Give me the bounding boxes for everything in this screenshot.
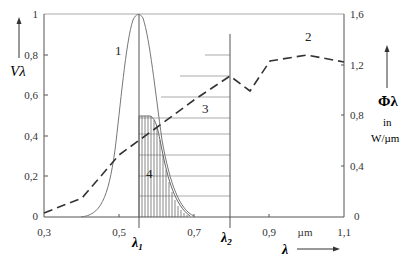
y-right-tick: 1,2 (350, 59, 364, 71)
y-right-tick: 0,4 (350, 160, 364, 172)
annotation-2: 2 (305, 29, 312, 44)
y-right-tick: 1,6 (350, 8, 364, 20)
y-right-tick: 0,8 (350, 109, 364, 121)
y-right-unit-line2: W/µm (371, 132, 400, 144)
y-right-label: Φλ (378, 93, 398, 109)
y-left-tick: 1 (33, 8, 39, 20)
y-left-tick: 0,6 (24, 89, 38, 101)
y-left-arrowhead-icon (17, 17, 22, 24)
annotation-1: 1 (115, 43, 122, 58)
x-axis-label: λ (281, 242, 288, 257)
x-axis-arrowhead-icon (333, 247, 340, 252)
y-left-tick: 0,2 (24, 170, 38, 182)
y-left-ticks (44, 55, 48, 176)
x-tick-label: 0,5 (112, 226, 126, 238)
y-left-tick: 0 (33, 210, 39, 222)
chart: 0,3 0,5 0,7 0,9 1,1 µm 0 0,2 0,4 0,6 0,8… (0, 0, 409, 262)
annotation-4: 4 (146, 166, 153, 181)
x-tick-label: 0,9 (262, 226, 276, 238)
y-right-tick: 0 (354, 210, 360, 222)
y-left-tick: 0,8 (24, 49, 38, 61)
x-unit: µm (298, 226, 313, 238)
y-right-unit-line1: in (383, 116, 392, 128)
lambda1-label: λ1 (131, 235, 143, 252)
annotation-3: 3 (202, 101, 209, 116)
x-tick-label: 1,1 (337, 226, 351, 238)
x-tick-label: 0,3 (37, 226, 51, 238)
y-left-tick: 0,4 (24, 130, 38, 142)
x-tick-label: 0,7 (187, 226, 201, 238)
curve-1-v-lambda (81, 14, 194, 217)
y-right-arrowhead-icon (385, 45, 390, 52)
y-left-label: Vλ (10, 63, 26, 79)
area-3-hatch (139, 55, 230, 196)
lambda2-label: λ2 (220, 230, 232, 247)
